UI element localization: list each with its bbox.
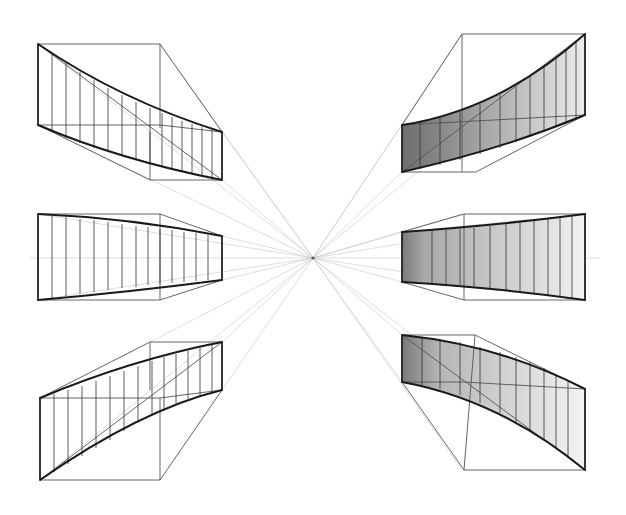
panel-bottom-right: [402, 335, 585, 470]
panel-middle-left: [38, 214, 222, 300]
vanishing-point: [312, 257, 315, 260]
panel-middle-right: [402, 214, 585, 300]
panel-bottom-left: [40, 342, 222, 480]
panel-top-right: [402, 34, 585, 172]
perspective-sketch: [0, 0, 626, 515]
panel-top-left: [38, 44, 222, 180]
